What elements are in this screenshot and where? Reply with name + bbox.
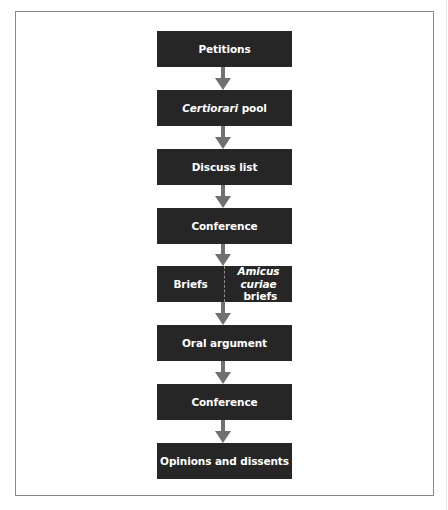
step-label: Petitions	[198, 43, 250, 56]
step-label: Oral argument	[182, 337, 267, 350]
step-oral-argument: Oral argument	[157, 325, 292, 361]
step-discuss-list: Discuss list	[157, 149, 292, 185]
arrow-down-icon	[215, 126, 231, 149]
step-petitions: Petitions	[157, 31, 292, 67]
step-label-italic: curiae	[240, 278, 276, 290]
arrow-down-icon	[215, 420, 231, 443]
arrow-down-icon	[215, 361, 231, 384]
step-label: pool	[238, 102, 267, 114]
step-label: Briefs	[173, 278, 207, 291]
arrow-down-icon	[215, 67, 231, 90]
step-label-italic: Certiorari	[182, 102, 238, 114]
page-edge-line	[446, 0, 447, 510]
step-label: Opinions and dissents	[160, 455, 289, 468]
arrow-down-icon	[215, 244, 231, 266]
amicus-briefs-cell: Amicus curiae briefs	[225, 266, 292, 302]
step-label-italic: Amicus	[237, 265, 279, 278]
briefs-cell: Briefs	[157, 266, 225, 302]
arrow-down-icon	[215, 185, 231, 208]
step-label: Discuss list	[192, 161, 258, 174]
step-certiorari-pool: Certiorari pool	[157, 90, 292, 126]
step-opinions-and-dissents: Opinions and dissents	[157, 443, 292, 479]
step-label: briefs	[240, 290, 277, 302]
step-conference-2: Conference	[157, 384, 292, 420]
step-label: Conference	[191, 220, 257, 233]
arrow-down-icon	[215, 302, 231, 325]
step-label: Conference	[191, 396, 257, 409]
step-conference-1: Conference	[157, 208, 292, 244]
step-briefs: Briefs Amicus curiae briefs	[157, 266, 292, 302]
